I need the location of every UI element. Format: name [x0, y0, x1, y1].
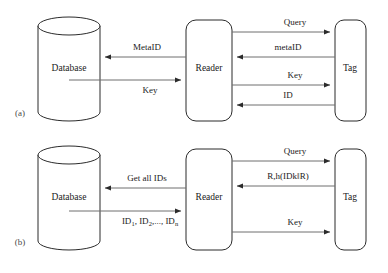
panel-a-edge-label-key-db: Key: [143, 85, 158, 95]
panel-a-node-database[interactable]: Database: [38, 17, 100, 121]
panel-a-node-tag[interactable]: Tag: [335, 20, 366, 121]
panel-b-marker: (b): [15, 237, 26, 247]
panel-a-edge-id: ID: [237, 90, 335, 105]
panel-a: Database Reader Tag MetaID Key: [15, 17, 366, 121]
id-list-part-1: ID: [122, 216, 132, 226]
diagram-canvas: Database Reader Tag MetaID Key: [0, 0, 388, 273]
panel-a-edge-label-metaid: MetaID: [133, 42, 161, 52]
panel-a-edge-key-to-tag: Key: [232, 70, 330, 85]
panel-b-edge-hash-response: R,h(IDk‖R): [237, 171, 335, 186]
panel-a-edge-label-key-tag: Key: [288, 70, 303, 80]
panel-b-edge-query: Query: [232, 146, 330, 161]
panel-b-edge-label-hash-response: R,h(IDk‖R): [267, 171, 308, 181]
panel-b-node-database[interactable]: Database: [38, 146, 100, 250]
panel-a-edge-metaid-to-db: MetaID: [105, 42, 186, 57]
panel-b-edge-label-get-all-ids: Get all IDs: [127, 173, 167, 183]
id-list-sub-3: n: [175, 220, 179, 227]
panel-a-tag-label: Tag: [343, 63, 357, 73]
panel-b-tag-label: Tag: [343, 192, 357, 202]
id-list-part-2: , ID: [135, 216, 149, 226]
panel-a-edge-label-query: Query: [284, 17, 307, 27]
panel-a-edge-metaid-from-tag: metaID: [237, 42, 335, 57]
panel-b-edge-label-id-list: ID1, ID2,..., IDn: [122, 216, 179, 227]
panel-b-node-reader[interactable]: Reader: [186, 149, 232, 250]
panel-a-database-label: Database: [52, 63, 87, 73]
protocol-flow-diagram: Database Reader Tag MetaID Key: [0, 0, 388, 273]
panel-a-edge-label-id: ID: [283, 90, 293, 100]
panel-a-node-reader[interactable]: Reader: [186, 20, 232, 121]
panel-b-edge-label-query: Query: [284, 146, 307, 156]
panel-a-reader-label: Reader: [196, 63, 224, 73]
id-list-part-3: ,..., ID: [152, 216, 175, 226]
panel-a-marker: (a): [15, 108, 25, 118]
panel-b-node-tag[interactable]: Tag: [335, 149, 366, 250]
panel-b-database-label: Database: [52, 192, 87, 202]
panel-b-edge-get-all-ids: Get all IDs: [105, 173, 186, 188]
panel-a-edge-label-metaid-tag: metaID: [275, 42, 302, 52]
panel-b-edge-label-key: Key: [288, 217, 303, 227]
panel-b-edge-key: Key: [232, 217, 330, 232]
panel-b-reader-label: Reader: [196, 192, 224, 202]
panel-a-edge-query: Query: [232, 17, 330, 32]
panel-b: Database Reader Tag Get all IDs ID1, ID2…: [15, 146, 366, 250]
